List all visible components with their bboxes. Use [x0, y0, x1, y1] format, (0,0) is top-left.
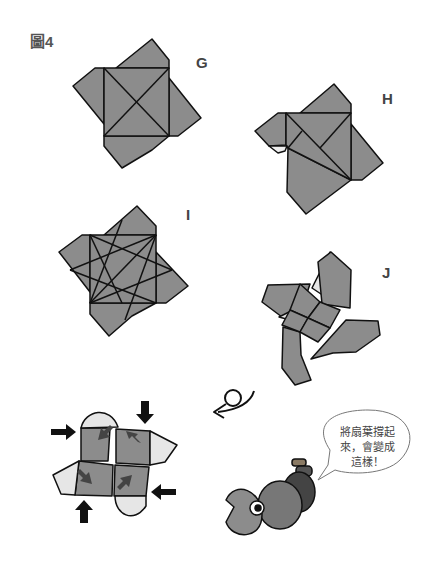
bubble-line-1: 將扇葉撐起 — [335, 425, 399, 440]
arrow-down-icon — [136, 401, 154, 424]
arrow-up-icon — [75, 500, 93, 523]
arrow-right-icon — [51, 424, 76, 440]
fish-character — [226, 459, 315, 535]
turn-over-arrow-icon — [214, 390, 254, 418]
step-j-diagram — [262, 252, 380, 385]
arrow-left-icon — [151, 484, 176, 500]
step-g-diagram — [73, 39, 201, 168]
step-i-diagram — [59, 206, 188, 336]
diagram-canvas — [0, 0, 438, 574]
bubble-line-2: 來，會變成 — [335, 440, 399, 455]
pinwheel-diagram — [53, 412, 177, 515]
bubble-line-3: 這樣！ — [335, 455, 399, 470]
step-h-diagram — [255, 84, 383, 214]
speech-bubble-text: 將扇葉撐起 來，會變成 這樣！ — [335, 425, 399, 470]
